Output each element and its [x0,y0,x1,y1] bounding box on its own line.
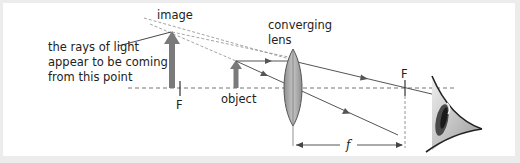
annotation-line-3: from this point [48,70,133,84]
image-label: image [157,8,193,22]
annotation-line-1: the rays of light [48,40,139,54]
converging-lens [284,49,302,146]
eye-icon [426,76,482,152]
object-label: object [221,92,257,106]
focal-left-label: F [176,98,183,112]
annotation-line-2: appear to be coming [48,55,168,69]
focal-length-label: f [345,138,353,152]
lens-label-line-2: lens [268,33,292,47]
focal-right-label: F [401,67,408,81]
object-arrow [230,60,242,88]
ray-through-centre [236,61,398,135]
lens-label-line-1: converging [268,18,332,32]
ray-diagram: image the rays of light appear to be com… [0,0,520,163]
